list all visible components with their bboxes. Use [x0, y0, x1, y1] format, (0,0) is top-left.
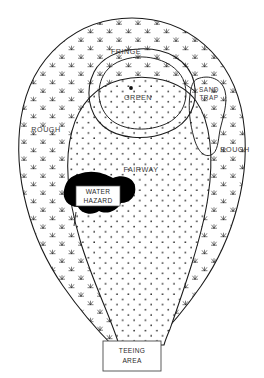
label-sand-trap-line2: TRAP [199, 94, 218, 101]
hole-pin-icon [129, 86, 133, 90]
label-sand-trap-line1: SAND [199, 86, 219, 93]
label-water-hazard-line1: WATER [86, 188, 111, 195]
label-green: GREEN [124, 93, 152, 102]
golf-hole-diagram: ROUGH ROUGH FAIRWAY FRINGE GREEN SAND TR… [0, 0, 264, 378]
course-map-svg: ROUGH ROUGH FAIRWAY FRINGE GREEN SAND TR… [0, 0, 264, 378]
label-rough-right: ROUGH [220, 145, 249, 154]
label-fringe: FRINGE [111, 47, 141, 56]
water-hazard-label-group: WATER HAZARD [76, 186, 120, 206]
label-water-hazard-line2: HAZARD [84, 197, 113, 204]
label-rough-left: ROUGH [31, 125, 60, 134]
label-teeing-area-line1: TEEING [119, 347, 145, 354]
label-teeing-area-line2: AREA [122, 357, 141, 364]
label-fairway: FAIRWAY [124, 165, 159, 174]
